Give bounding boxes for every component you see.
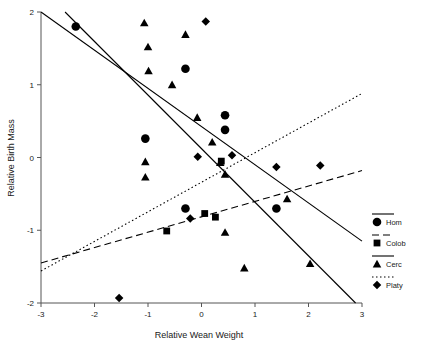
data-point-cerc [208, 138, 217, 146]
x-tick-label: -3 [37, 310, 45, 319]
legend-label-cerc: Cerc [386, 260, 402, 269]
axes-group [41, 12, 362, 303]
data-point-cerc [141, 173, 150, 181]
data-point-colob [201, 210, 208, 217]
data-point-cerc [168, 81, 177, 89]
data-point-hom [221, 126, 230, 135]
data-point-cerc [140, 19, 149, 27]
x-tick-label: 1 [253, 310, 258, 319]
data-point-cerc [144, 43, 153, 51]
x-tick-label: -2 [91, 310, 99, 319]
data-point-hom [181, 204, 190, 213]
y-tick-label: 1 [30, 81, 35, 90]
legend-marker-hom [373, 218, 382, 227]
data-point-cerc [193, 113, 202, 121]
data-point-cerc [144, 67, 153, 75]
y-tick-label: 2 [30, 8, 35, 17]
data-point-hom [141, 134, 150, 143]
y-tick-label: -2 [27, 299, 35, 308]
data-point-cerc [141, 158, 150, 166]
data-point-platy [115, 294, 124, 303]
x-tick-label: 0 [199, 310, 204, 319]
regression-lines-group [41, 12, 362, 303]
data-point-platy [194, 153, 203, 162]
legend-marker-cerc [373, 260, 382, 268]
x-tick-label: 3 [360, 310, 365, 319]
data-point-cerc [221, 170, 230, 178]
data-point-cerc [240, 264, 249, 272]
y-tick-label: -1 [27, 226, 35, 235]
data-point-colob [212, 214, 219, 221]
legend[interactable]: HomColobCercPlaty [372, 214, 406, 290]
legend-label-hom: Hom [386, 218, 402, 227]
tick-labels-group: -3-2-10123210-1-2 [27, 8, 365, 319]
x-tick-label: -1 [144, 310, 152, 319]
data-point-cerc [221, 228, 230, 236]
data-points-group [71, 17, 324, 302]
data-point-cerc [283, 195, 292, 203]
legend-marker-colob [374, 240, 381, 247]
legend-label-platy: Platy [386, 281, 403, 290]
y-axis-label: Relative Birth Mass [6, 119, 16, 197]
data-point-hom [221, 111, 230, 120]
data-point-hom [181, 64, 190, 73]
data-point-platy [202, 17, 211, 26]
data-point-colob [163, 228, 170, 235]
data-point-platy [186, 214, 195, 223]
data-point-platy [272, 163, 281, 172]
fit-line-cerc [65, 12, 356, 303]
data-point-platy [316, 161, 325, 170]
plot-canvas: -3-2-10123210-1-2 HomColobCercPlaty Rela… [0, 0, 421, 345]
x-tick-label: 2 [306, 310, 311, 319]
legend-label-colob: Colob [386, 239, 406, 248]
legend-marker-platy [373, 281, 382, 290]
y-tick-label: 0 [30, 154, 35, 163]
fit-line-hom [41, 12, 362, 241]
scatter-plot-figure: -3-2-10123210-1-2 HomColobCercPlaty Rela… [0, 0, 421, 345]
data-point-cerc [181, 30, 190, 38]
fit-line-platy [41, 93, 362, 271]
data-point-hom [71, 22, 80, 31]
data-point-platy [228, 151, 237, 160]
data-point-hom [272, 204, 281, 213]
x-axis-label: Relative Wean Weight [155, 330, 244, 340]
